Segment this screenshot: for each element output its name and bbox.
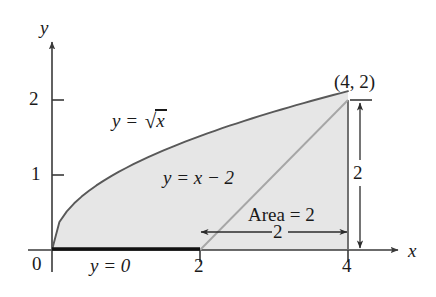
sqrt-label-lhs: y =	[112, 110, 143, 131]
line-equation-label: y = x − 2	[163, 168, 234, 187]
y-tick-label-2: 2	[29, 89, 39, 108]
x-tick-label-2: 2	[194, 256, 204, 275]
diagram-svg	[0, 0, 436, 297]
y-tick-label-1: 1	[31, 164, 41, 183]
radicand-x: x	[156, 110, 164, 131]
figure-canvas: y x 0 2 1 2 4 y = √x y = x − 2 y = 0 (4,…	[0, 0, 436, 297]
x-axis-label: x	[408, 241, 416, 260]
vertical-dimension-label: 2	[353, 163, 363, 182]
point-label-4-2: (4, 2)	[334, 72, 375, 91]
y-axis-label: y	[40, 18, 48, 37]
horizontal-dimension-label: 2	[273, 222, 283, 241]
sqrt-radical-group: √x	[143, 110, 165, 131]
sqrt-curve-label: y = √x	[112, 110, 165, 131]
y-equals-zero-label: y = 0	[90, 256, 130, 275]
x-tick-label-4: 4	[342, 256, 352, 275]
radical-sign-glyph: √	[145, 109, 157, 133]
origin-label: 0	[32, 254, 42, 273]
